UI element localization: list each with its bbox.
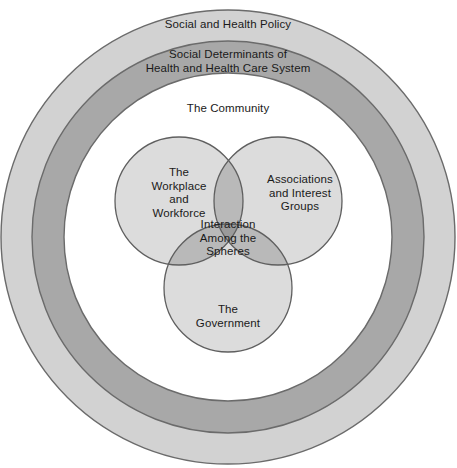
label-interaction-among-the-spheres: Interaction Among the Spheres	[180, 218, 276, 259]
diagram-canvas: Social and Health Policy Social Determin…	[0, 0, 457, 468]
label-social-determinants: Social Determinants of Health and Health…	[88, 48, 368, 75]
label-the-community: The Community	[128, 102, 328, 116]
label-social-and-health-policy: Social and Health Policy	[78, 18, 378, 32]
label-the-government: The Government	[170, 303, 286, 330]
label-the-workplace-and-workforce: The Workplace and Workforce	[126, 166, 232, 220]
label-associations-and-interest-groups: Associations and Interest Groups	[246, 173, 354, 214]
